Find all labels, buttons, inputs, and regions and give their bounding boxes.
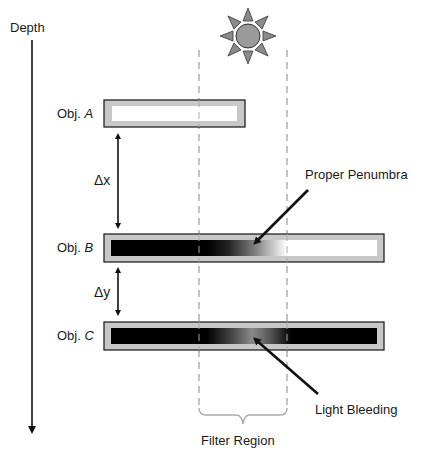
object-a: [104, 100, 245, 127]
sun-icon: [220, 8, 276, 64]
filter-region-brace: [199, 408, 287, 424]
bleeding-label: Light Bleeding: [315, 402, 397, 417]
object-b-prefix: Obj.: [57, 240, 84, 255]
object-a-prefix: Obj.: [57, 106, 84, 121]
object-c-letter: C: [84, 328, 93, 343]
object-c: [104, 322, 384, 350]
object-a-letter: A: [84, 106, 93, 121]
delta-x-label: Δx: [94, 172, 110, 188]
object-b-label: Obj. B: [57, 240, 93, 255]
diagram-canvas: [0, 0, 433, 460]
object-a-label: Obj. A: [57, 106, 93, 121]
object-b-letter: B: [84, 240, 93, 255]
depth-axis-label: Depth: [10, 20, 45, 35]
penumbra-label: Proper Penumbra: [305, 167, 408, 182]
object-b: [104, 234, 384, 262]
delta-y-label: Δy: [94, 284, 110, 300]
filter-region-label: Filter Region: [201, 433, 275, 448]
object-c-label: Obj. C: [57, 328, 94, 343]
object-c-prefix: Obj.: [57, 328, 84, 343]
